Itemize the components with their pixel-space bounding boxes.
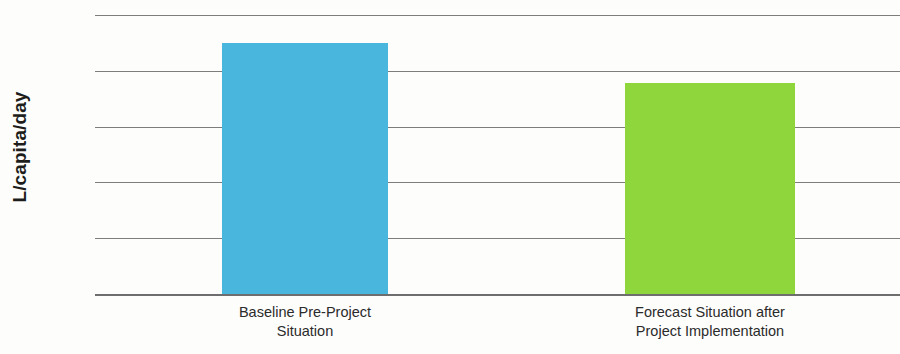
category-label-baseline: Baseline Pre-Project Situation: [165, 303, 445, 341]
gridline-80: [95, 71, 900, 72]
gridline-100: [95, 15, 900, 16]
bar-forecast-after-implementation: [625, 83, 795, 294]
bar-chart: L/capita/day 100 80 60 40 20 0 Baseline …: [0, 0, 900, 354]
y-axis-title: L/capita/day: [0, 0, 40, 294]
bar-baseline-pre-project: [222, 43, 388, 294]
y-axis-title-text: L/capita/day: [9, 91, 31, 202]
plot-area: 100 80 60 40 20 0: [95, 15, 900, 294]
gridline-0: [95, 294, 900, 296]
category-label-forecast: Forecast Situation after Project Impleme…: [570, 303, 850, 341]
